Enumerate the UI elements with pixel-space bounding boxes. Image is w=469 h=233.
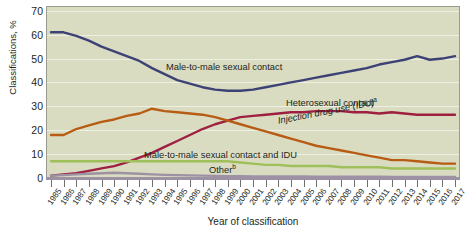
x-axis-tick xyxy=(354,180,355,187)
series-label-other: Otherb xyxy=(209,163,236,175)
x-axis-tick xyxy=(76,180,77,187)
x-axis-tick xyxy=(152,180,153,187)
x-axis-tick xyxy=(405,180,406,187)
x-axis-tick xyxy=(215,180,216,187)
y-axis-tick-label: 20 xyxy=(3,124,43,136)
x-axis-tick xyxy=(417,180,418,187)
x-axis-tick xyxy=(89,180,90,187)
x-axis-tick-labels: 1985198619871988198919901991199219931994… xyxy=(46,187,460,217)
x-axis-tick xyxy=(329,180,330,187)
x-axis-tick xyxy=(177,180,178,187)
x-axis-ticks xyxy=(46,180,460,187)
x-axis-tick xyxy=(139,180,140,187)
x-axis-title: Year of classification xyxy=(46,216,460,227)
x-axis-tick xyxy=(240,180,241,187)
y-axis-tick-label: 0 xyxy=(3,172,43,184)
x-axis-tick xyxy=(316,180,317,187)
x-axis-tick xyxy=(51,180,52,187)
x-axis-tick xyxy=(102,180,103,187)
x-axis-tick xyxy=(379,180,380,187)
x-axis-tick xyxy=(278,180,279,187)
x-axis-tick xyxy=(114,180,115,187)
x-axis-tick xyxy=(64,180,65,187)
x-axis-tick xyxy=(291,180,292,187)
x-axis-tick xyxy=(266,180,267,187)
footnote-marker: b xyxy=(232,163,236,170)
x-axis-tick xyxy=(455,180,456,187)
x-axis-tick xyxy=(165,180,166,187)
x-axis-tick xyxy=(367,180,368,187)
hiv-transmission-category-line-chart: 010203040506070 Classifications, % 19851… xyxy=(0,0,469,233)
y-axis-title: Classifications, % xyxy=(7,0,18,118)
x-axis-tick xyxy=(430,180,431,187)
x-axis-tick xyxy=(190,180,191,187)
y-axis-tick-label: 10 xyxy=(3,148,43,160)
x-axis-tick xyxy=(228,180,229,187)
x-axis-tick xyxy=(127,180,128,187)
x-axis-tick xyxy=(253,180,254,187)
x-axis-tick xyxy=(392,180,393,187)
x-axis-tick xyxy=(203,180,204,187)
x-axis-tick xyxy=(341,180,342,187)
series-label-male-to-male-sexual-contact: Male-to-male sexual contact xyxy=(166,62,282,72)
x-axis-tick xyxy=(304,180,305,187)
x-axis-tick xyxy=(442,180,443,187)
series-label-male-to-male-sexual-contact-and-idu: Male-to-male sexual contact and IDU xyxy=(144,150,297,160)
